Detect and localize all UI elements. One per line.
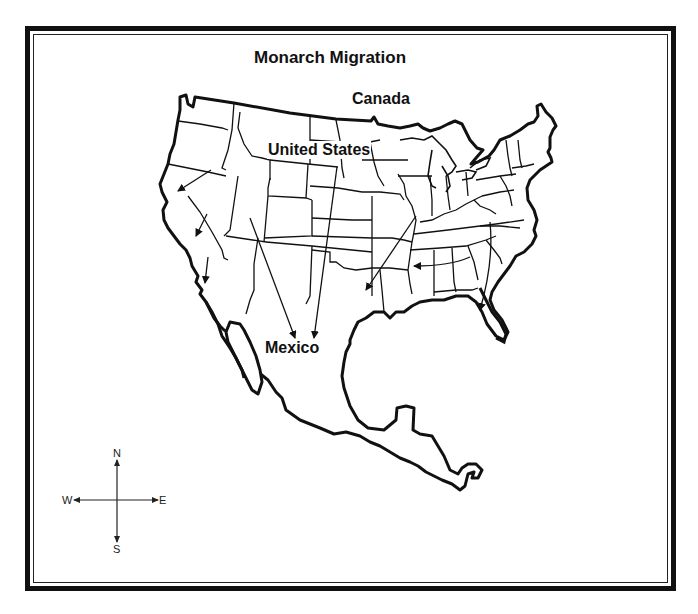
map-title: Monarch Migration [230, 48, 430, 68]
label-united-states: United States [267, 141, 371, 159]
compass-label-south: S [113, 543, 120, 555]
compass-rose [74, 460, 158, 542]
label-mexico: Mexico [264, 339, 320, 357]
compass-label-east: E [159, 494, 166, 506]
north-america-map [0, 0, 698, 614]
compass-label-north: N [113, 447, 121, 459]
label-canada: Canada [351, 90, 411, 108]
compass-label-west: W [62, 494, 72, 506]
